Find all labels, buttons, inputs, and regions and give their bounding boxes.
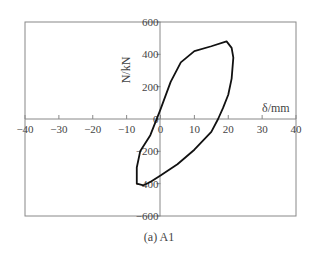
svg-text:600: 600 — [142, 16, 159, 28]
svg-text:40: 40 — [291, 123, 303, 135]
svg-text:0: 0 — [158, 123, 164, 135]
svg-text:−10: −10 — [118, 123, 136, 135]
svg-text:−30: −30 — [50, 123, 68, 135]
svg-text:400: 400 — [142, 48, 159, 60]
hysteresis-curve — [137, 41, 234, 185]
svg-text:10: 10 — [189, 123, 201, 135]
svg-text:−600: −600 — [136, 210, 159, 222]
x-axis-label: δ/mm — [262, 101, 290, 115]
figure-caption: (a) A1 — [0, 230, 318, 245]
svg-text:200: 200 — [142, 81, 159, 93]
y-axis-label: N/kN — [119, 56, 133, 83]
svg-text:−40: −40 — [16, 123, 34, 135]
x-ticks: −40−30−20−10010203040 — [16, 115, 302, 135]
svg-text:−20: −20 — [84, 123, 102, 135]
svg-text:30: 30 — [257, 123, 269, 135]
chart: −40−30−20−10010203040 6004002000−200−400… — [0, 0, 318, 257]
svg-text:20: 20 — [223, 123, 235, 135]
